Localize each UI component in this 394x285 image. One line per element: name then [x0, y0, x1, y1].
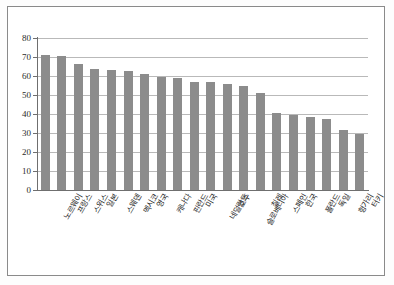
x-axis-category-label: 스웨덴	[126, 193, 143, 215]
chart-screenshot: 01020304050607080 노르웨이프랑스스위스일본스웨덴멕시코영국캐나…	[0, 0, 394, 285]
x-axis-category-label: 캐나다	[176, 193, 193, 215]
x-axis-category-labels: 노르웨이프랑스스위스일본스웨덴멕시코영국캐나다핀란드미국네덜란드호주슬로베니아칠…	[0, 0, 394, 285]
bar-chart: 01020304050607080 노르웨이프랑스스위스일본스웨덴멕시코영국캐나…	[0, 0, 394, 285]
